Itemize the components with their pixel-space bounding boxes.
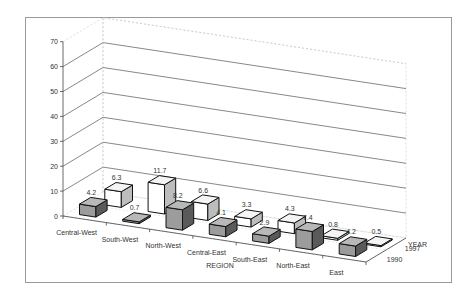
data-label: 2.9 [260, 219, 270, 226]
bar-1990-north-east [296, 222, 324, 250]
y-tick-label: 70 [50, 38, 58, 45]
category-label: Central-East [187, 249, 226, 256]
y-tick-label: 10 [50, 188, 58, 195]
category-label: Central-West [56, 229, 97, 236]
bar-1990-south-east [253, 227, 281, 244]
data-label: 3.3 [242, 201, 252, 208]
y-tick-label: 50 [50, 88, 58, 95]
y-tick-label: 40 [50, 113, 58, 120]
data-label: 6.3 [112, 174, 122, 181]
bar-1997-north-west [191, 195, 219, 221]
data-label: 7.4 [303, 214, 313, 221]
data-label: 6.6 [198, 187, 208, 194]
data-label: 0.7 [130, 204, 140, 211]
bar-1990-south-west [123, 213, 151, 224]
bar-chart-3d: 0102030405060706.311.76.63.34.30.80.54.2… [0, 0, 472, 303]
data-label: 11.7 [153, 167, 166, 174]
data-label: 4.2 [86, 189, 96, 196]
data-label: 4.1 [216, 209, 226, 216]
category-label: South-West [102, 236, 138, 243]
category-label: North-West [146, 242, 181, 249]
y-tick-label: 0 [54, 213, 58, 220]
bar-1997-east [365, 236, 393, 246]
data-label: 4.2 [346, 228, 356, 235]
bar-1990-east [339, 237, 367, 257]
data-label: 8.2 [173, 192, 183, 199]
data-label: 0.8 [328, 221, 338, 228]
category-label: East [329, 269, 343, 276]
bar-1990-north-west [166, 201, 194, 231]
y-tick-label: 60 [50, 63, 58, 70]
bar-1990-central-west [80, 197, 108, 217]
bar-1997-north-east [321, 229, 349, 240]
y-tick-label: 30 [50, 138, 58, 145]
data-label: 0.5 [371, 228, 381, 235]
category-label: North-East [276, 262, 310, 269]
bar-1990-central-east [209, 217, 237, 236]
category-label: South-East [232, 256, 267, 263]
y-axis: 010203040506070 [50, 38, 63, 219]
data-label: 4.3 [285, 205, 295, 212]
y-tick-label: 20 [50, 163, 58, 170]
depth-label-1990: 1990 [387, 256, 403, 263]
x-axis-title: REGION [206, 262, 234, 269]
z-axis-title: YEAR [408, 241, 427, 248]
bar-1997-central-west [105, 183, 133, 208]
